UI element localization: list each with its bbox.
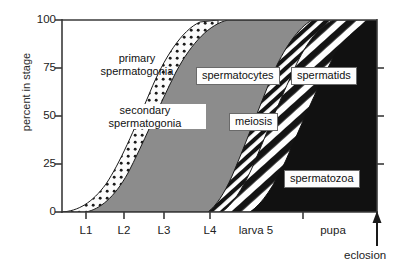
x-tick-label-l3: L3 bbox=[150, 224, 178, 236]
x-tick-marks bbox=[86, 212, 377, 219]
region-label-spermatozoa: spermatozoa bbox=[284, 170, 360, 188]
region-label-primary-line1: primary bbox=[76, 52, 198, 65]
x-tick-label-larva5: larva 5 bbox=[228, 224, 284, 236]
region-label-secondary-line2: spermatogonia bbox=[84, 117, 206, 130]
y-tick-label-25: 25 bbox=[16, 158, 56, 168]
y-tick-label-75: 75 bbox=[16, 62, 56, 72]
x-tick-label-l1: L1 bbox=[72, 224, 100, 236]
region-label-secondary-line1: secondary bbox=[84, 104, 206, 117]
y-tick-marks bbox=[55, 20, 62, 212]
y-tick-label-0: 0 bbox=[16, 206, 56, 216]
x-tick-label-pupa: pupa bbox=[312, 224, 354, 236]
region-label-spermatocytes: spermatocytes bbox=[196, 67, 280, 85]
right-tick-marks bbox=[377, 68, 384, 164]
y-tick-label-50: 50 bbox=[16, 110, 56, 120]
region-label-primary-spermatogonia: primary spermatogonia bbox=[76, 52, 198, 77]
region-label-meiosis: meiosis bbox=[229, 113, 278, 131]
eclosion-arrow-icon bbox=[373, 211, 382, 246]
y-tick-labels: 100 75 50 25 0 bbox=[8, 0, 56, 269]
region-label-primary-line2: spermatogonia bbox=[76, 65, 198, 78]
eclosion-label: eclosion bbox=[344, 249, 386, 261]
region-label-spermatids: spermatids bbox=[291, 67, 357, 85]
x-tick-label-l2: L2 bbox=[110, 224, 138, 236]
x-tick-label-l4: L4 bbox=[196, 224, 224, 236]
y-tick-label-100: 100 bbox=[16, 14, 56, 24]
region-label-secondary-spermatogonia: secondary spermatogonia bbox=[84, 104, 206, 129]
spermatogenesis-stage-chart: percent in stage 100 75 50 25 0 L1 L2 L3… bbox=[0, 0, 405, 269]
